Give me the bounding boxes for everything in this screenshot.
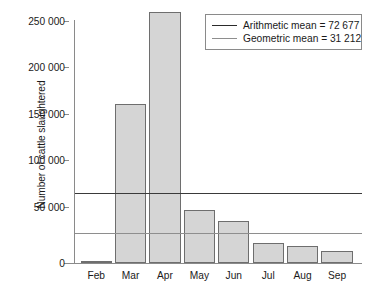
x-tick-label-mar: Mar bbox=[122, 270, 140, 281]
y-tick-label: 150 000 bbox=[28, 108, 65, 119]
x-tick-label-jul: Jul bbox=[262, 270, 275, 281]
x-tick-label-sep: Sep bbox=[328, 270, 346, 281]
figure-caption bbox=[4, 296, 368, 303]
bar-mar bbox=[115, 104, 146, 263]
bar-jun bbox=[218, 221, 249, 263]
y-axis-line bbox=[74, 20, 75, 263]
x-tick-label-aug: Aug bbox=[294, 270, 312, 281]
legend-item-arithmetic-mean: Arithmetic mean = 72 677 bbox=[210, 19, 356, 32]
x-axis-line bbox=[69, 263, 362, 264]
bar-sep bbox=[321, 251, 352, 263]
x-tick-label-apr: Apr bbox=[157, 270, 173, 281]
x-tick-label-may: May bbox=[190, 270, 209, 281]
arithmetic-mean-line bbox=[75, 193, 362, 194]
y-tick-label: 100 000 bbox=[28, 155, 65, 166]
legend-item-label: Arithmetic mean = 72 677 bbox=[243, 20, 359, 31]
y-tick-label: 200 000 bbox=[28, 62, 65, 73]
line-swatch-icon bbox=[212, 25, 237, 26]
bar-feb bbox=[81, 261, 112, 263]
legend-item-geometric-mean: Geometric mean = 31 212 bbox=[210, 32, 356, 45]
bar-jul bbox=[253, 243, 284, 263]
geometric-mean-line bbox=[75, 233, 362, 234]
bar-apr bbox=[149, 12, 180, 263]
bar-chart-figure: Number of cattle slaughtered 250 000 200… bbox=[0, 0, 372, 303]
bar-aug bbox=[287, 246, 318, 263]
chart-legend: Arithmetic mean = 72 677 Geometric mean … bbox=[205, 14, 362, 50]
bar-may bbox=[184, 210, 215, 263]
y-tick-label: 50 000 bbox=[34, 201, 65, 212]
y-tick-label: 0 bbox=[59, 258, 65, 269]
y-axis-title: Number of cattle slaughtered bbox=[36, 25, 47, 265]
line-swatch-icon bbox=[212, 38, 237, 39]
x-tick-label-feb: Feb bbox=[87, 270, 105, 281]
legend-item-label: Geometric mean = 31 212 bbox=[243, 33, 361, 44]
x-tick-label-jun: Jun bbox=[226, 270, 242, 281]
plot-area: 250 000 200 000 150 000 100 000 50 000 0 bbox=[74, 20, 362, 263]
y-tick-label: 250 000 bbox=[28, 16, 65, 27]
